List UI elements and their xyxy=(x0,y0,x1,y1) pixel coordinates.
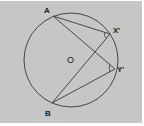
chords xyxy=(52,16,115,103)
label-center-o: O xyxy=(67,55,74,65)
segment-a-y xyxy=(53,16,115,69)
circle-diagram: O A X' Y' B xyxy=(0,0,144,126)
label-point-b: B xyxy=(45,109,51,118)
label-point-x: X' xyxy=(113,26,120,35)
diagram-canvas: O A X' Y' B xyxy=(0,0,144,126)
label-point-y: Y' xyxy=(117,65,124,74)
segment-a-x xyxy=(53,16,110,34)
label-point-a: A xyxy=(44,6,50,15)
angle-mark-y xyxy=(109,65,110,72)
segment-b-x xyxy=(52,34,110,103)
segment-b-y xyxy=(52,69,115,103)
angle-marks xyxy=(104,32,110,72)
